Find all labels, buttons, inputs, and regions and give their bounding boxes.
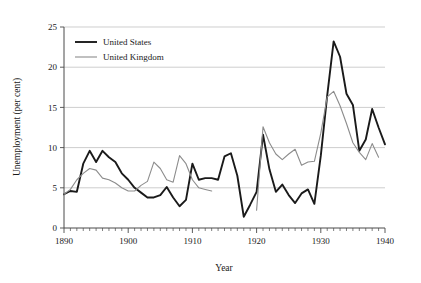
x-tick-label-1890: 1890 xyxy=(55,236,74,246)
y-tick-label-20: 20 xyxy=(48,62,58,72)
x-axis-title: Year xyxy=(215,263,233,273)
y-tick-label-15: 15 xyxy=(48,103,58,113)
unemployment-line-chart: 189019001910192019301940 0510152025 Unit… xyxy=(0,0,421,283)
y-axis-title: Unemployment (per cent) xyxy=(12,78,23,176)
x-tick-label-1940: 1940 xyxy=(376,236,395,246)
x-tick-label-1920: 1920 xyxy=(248,236,267,246)
y-tick-label-0: 0 xyxy=(53,223,58,233)
y-tick-label-25: 25 xyxy=(48,22,58,32)
y-tick-label-10: 10 xyxy=(48,143,58,153)
chart-figure: 189019001910192019301940 0510152025 Unit… xyxy=(0,0,421,283)
x-tick-label-1900: 1900 xyxy=(119,236,138,246)
x-tick-label-1910: 1910 xyxy=(183,236,202,246)
y-tick-label-5: 5 xyxy=(53,183,58,193)
legend-label-1: United Kingdom xyxy=(103,52,164,62)
x-tick-label-1930: 1930 xyxy=(312,236,331,246)
legend-label-0: United States xyxy=(103,37,152,47)
